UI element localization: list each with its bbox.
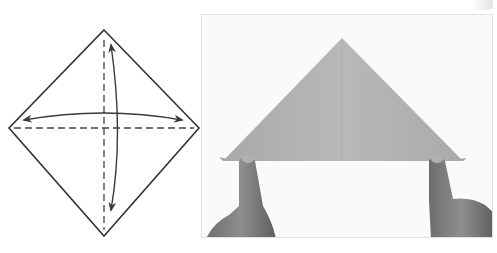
step-photo bbox=[201, 14, 493, 238]
page-corner-decoration bbox=[471, 0, 493, 10]
photo-content bbox=[202, 15, 493, 238]
